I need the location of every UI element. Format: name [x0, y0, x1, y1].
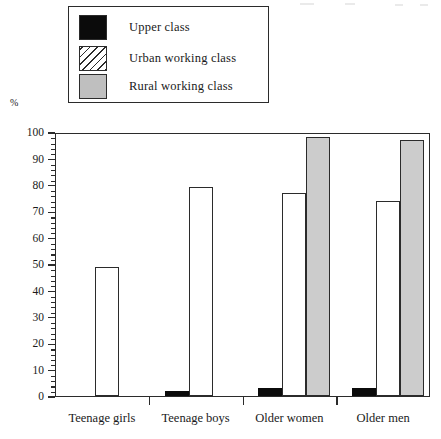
y-tick-label: 90 — [33, 154, 45, 166]
y-tick-mark — [48, 264, 55, 265]
x-axis-label-teenage-boys: Teenage boys — [162, 411, 230, 426]
y-tick-mark — [48, 291, 55, 292]
bar-group — [71, 134, 143, 396]
legend-swatch-solid-gray-icon — [79, 74, 107, 99]
y-tick-label: 70 — [33, 206, 45, 218]
y-tick-label: 10 — [33, 365, 45, 377]
y-tick-label: 80 — [33, 180, 45, 192]
x-axis-separator — [149, 397, 150, 405]
legend-item-urban-working-class: Urban working class — [79, 45, 236, 71]
bar — [376, 201, 400, 396]
scan-artifact — [345, 3, 355, 5]
y-tick-mark — [48, 370, 55, 371]
x-axis-label-older-women: Older women — [255, 411, 323, 426]
bar — [95, 267, 119, 396]
bar — [352, 388, 376, 396]
legend-label-urban-working-class: Urban working class — [129, 51, 236, 66]
bars-layer — [56, 134, 429, 396]
legend-swatch-solid-black-icon — [79, 15, 107, 40]
bar-group — [352, 134, 424, 396]
x-axis-separator — [243, 397, 244, 405]
bar-group — [258, 134, 330, 396]
y-axis: 0102030405060708090100 — [0, 133, 55, 397]
scan-artifact — [420, 4, 428, 6]
y-tick-mark — [48, 317, 55, 318]
x-axis-separator — [336, 397, 337, 405]
legend-label-rural-working-class: Rural working class — [129, 79, 233, 94]
y-tick-label: 40 — [33, 286, 45, 298]
y-tick-label: 60 — [33, 233, 45, 245]
scan-artifact — [300, 3, 314, 5]
x-axis: Teenage girlsTeenage boysOlder womenOlde… — [55, 397, 430, 439]
y-axis-unit-label: % — [10, 97, 18, 108]
y-tick-mark — [48, 132, 55, 133]
bar — [258, 388, 282, 396]
y-tick-label: 30 — [33, 312, 45, 324]
legend-item-rural-working-class: Rural working class — [79, 73, 233, 99]
legend-item-upper-class: Upper class — [79, 14, 190, 40]
bar — [306, 137, 330, 396]
y-tick-label: 0 — [38, 391, 44, 403]
bar — [165, 391, 189, 396]
bar — [282, 193, 306, 396]
y-tick-mark — [48, 159, 55, 160]
legend-swatch-diagonal-hatch-icon — [79, 46, 107, 71]
plot-area — [55, 133, 430, 397]
y-tick-mark — [48, 212, 55, 213]
chart-legend: Upper class Urban working class Rural wo… — [68, 6, 269, 103]
y-tick-mark — [48, 185, 55, 186]
y-tick-mark — [48, 396, 55, 397]
y-tick-label: 100 — [27, 127, 44, 139]
bar — [189, 187, 213, 396]
y-tick-label: 50 — [33, 259, 45, 271]
scan-artifact — [395, 4, 403, 6]
bar — [400, 140, 424, 396]
y-tick-mark — [48, 238, 55, 239]
legend-label-upper-class: Upper class — [129, 20, 190, 35]
bar-group — [165, 134, 237, 396]
x-axis-label-teenage-girls: Teenage girls — [68, 411, 135, 426]
y-tick-mark — [48, 344, 55, 345]
x-axis-label-older-men: Older men — [357, 411, 410, 426]
y-tick-label: 20 — [33, 338, 45, 350]
